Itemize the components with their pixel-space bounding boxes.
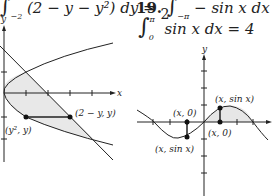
right-label-bottom-left: (x, sin x): [155, 144, 195, 154]
left-label-right-point: (2 − y, y): [75, 108, 116, 118]
figures: y x (2 − y, y) (y², y) y: [0, 0, 273, 196]
right-label-top-left: (x, 0): [173, 108, 197, 118]
left-x-axis-label: x: [117, 88, 122, 98]
left-label-left-point: (y², y): [5, 125, 32, 135]
left-y-axis-label: y: [0, 14, 7, 24]
right-label-top-right: (x, sin x): [215, 94, 255, 104]
right-y-axis-label: y: [201, 44, 208, 54]
left-figure: y x (2 − y, y) (y², y): [0, 14, 122, 162]
right-label-bottom-right: (x, 0): [208, 128, 232, 138]
right-figure: y (x, sin x) (x, 0) (x, 0) (x, sin x): [137, 44, 272, 196]
